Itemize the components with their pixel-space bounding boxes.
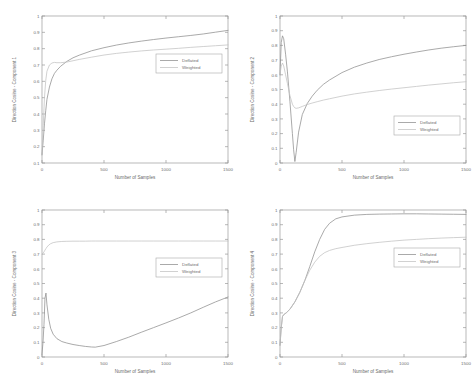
legend-label-deflated: Deflated — [420, 120, 437, 125]
y-tick-label: 0 — [275, 161, 278, 166]
y-tick-label: 0.5 — [271, 281, 278, 286]
curve-deflated — [42, 293, 228, 354]
curve-deflated — [280, 214, 466, 345]
y-tick-label: 0.4 — [271, 296, 278, 301]
y-tick-label: 0.5 — [33, 281, 40, 286]
plot-area-component-1: 0500100015000.10.20.30.40.50.60.70.80.91… — [0, 0, 238, 195]
subplot-component-2: 05001000150000.10.20.30.40.50.60.70.80.9… — [238, 0, 476, 195]
y-tick-label: 0.4 — [33, 112, 40, 117]
y-tick-label: 0.2 — [33, 325, 40, 330]
legend: DeflatedWeighted — [394, 248, 460, 267]
legend-label-deflated: Deflated — [420, 252, 437, 257]
y-tick-label: 0.2 — [271, 325, 278, 330]
y-tick-label: 1 — [37, 14, 40, 19]
x-axis-title: Number of Samples — [353, 175, 394, 180]
y-tick-label: 0.8 — [33, 237, 40, 242]
subplot-component-1: 0500100015000.10.20.30.40.50.60.70.80.91… — [0, 0, 238, 195]
y-tick-label: 0.5 — [271, 87, 278, 92]
y-tick-label: 0.3 — [271, 117, 278, 122]
legend-label-weighted: Weighted — [182, 269, 201, 274]
y-tick-label: 0.1 — [33, 161, 40, 166]
x-tick-label: 1500 — [461, 361, 471, 366]
y-tick-label: 0.1 — [33, 340, 40, 345]
x-tick-label: 1000 — [161, 167, 171, 172]
y-tick-label: 0.7 — [33, 63, 40, 68]
legend-label-weighted: Weighted — [420, 259, 439, 264]
legend-label-deflated: Deflated — [182, 58, 199, 63]
plot-area-component-4: 05001000150000.10.20.30.40.50.60.70.80.9… — [238, 194, 476, 389]
y-tick-label: 0 — [275, 355, 278, 360]
y-tick-label: 0.6 — [33, 79, 40, 84]
y-tick-label: 0.8 — [271, 43, 278, 48]
curve-deflated — [280, 36, 466, 162]
y-tick-label: 0.7 — [33, 252, 40, 257]
y-tick-label: 0 — [37, 355, 40, 360]
x-tick-label: 500 — [338, 361, 346, 366]
x-tick-label: 500 — [338, 167, 346, 172]
y-tick-label: 0.6 — [271, 73, 278, 78]
x-tick-label: 0 — [41, 361, 44, 366]
legend-label-weighted: Weighted — [182, 65, 201, 70]
x-axis-title: Number of Samples — [115, 369, 156, 374]
x-tick-label: 0 — [279, 167, 282, 172]
legend-label-weighted: Weighted — [420, 127, 439, 132]
y-tick-label: 0.7 — [271, 252, 278, 257]
x-tick-label: 1500 — [223, 167, 233, 172]
x-axis-title: Number of Samples — [353, 369, 394, 374]
axes-frame — [42, 16, 228, 163]
y-tick-label: 0.9 — [271, 28, 278, 33]
subplot-component-4: 05001000150000.10.20.30.40.50.60.70.80.9… — [238, 194, 476, 389]
curve-weighted — [42, 241, 228, 254]
plot-area-component-3: 05001000150000.10.20.30.40.50.60.70.80.9… — [0, 194, 238, 389]
y-tick-label: 0.4 — [271, 102, 278, 107]
y-axis-title: Direction Cosine - Component 2 — [250, 56, 255, 122]
x-tick-label: 500 — [100, 167, 108, 172]
x-tick-label: 1000 — [399, 361, 409, 366]
y-tick-label: 0.3 — [33, 128, 40, 133]
axes-frame — [280, 16, 466, 163]
y-axis-title: Direction Cosine - Component 1 — [12, 56, 17, 122]
y-tick-label: 0.3 — [271, 311, 278, 316]
x-tick-label: 0 — [279, 361, 282, 366]
y-tick-label: 0.9 — [33, 222, 40, 227]
y-tick-label: 0.9 — [33, 30, 40, 35]
y-axis-title: Direction Cosine - Component 3 — [12, 250, 17, 316]
figure-canvas: 0500100015000.10.20.30.40.50.60.70.80.91… — [0, 0, 476, 389]
y-tick-label: 1 — [275, 208, 278, 213]
y-tick-label: 0.7 — [271, 58, 278, 63]
x-tick-label: 1000 — [161, 361, 171, 366]
y-tick-label: 1 — [275, 14, 278, 19]
y-axis-title: Direction Cosine - Component 4 — [250, 250, 255, 316]
y-tick-label: 0.8 — [271, 237, 278, 242]
y-tick-label: 0.2 — [271, 131, 278, 136]
legend: DeflatedWeighted — [394, 116, 460, 135]
plot-area-component-2: 05001000150000.10.20.30.40.50.60.70.80.9… — [238, 0, 476, 195]
y-tick-label: 0.9 — [271, 222, 278, 227]
y-tick-label: 0.8 — [33, 46, 40, 51]
legend-label-deflated: Deflated — [182, 262, 199, 267]
x-axis-title: Number of Samples — [115, 175, 156, 180]
y-tick-label: 0.3 — [33, 311, 40, 316]
x-tick-label: 500 — [100, 361, 108, 366]
curve-weighted — [280, 63, 466, 108]
y-tick-label: 0.5 — [33, 95, 40, 100]
axes-frame — [280, 210, 466, 357]
curve-deflated — [42, 30, 228, 154]
legend: DeflatedWeighted — [156, 54, 222, 73]
y-tick-label: 0.1 — [271, 146, 278, 151]
x-tick-label: 0 — [41, 167, 44, 172]
x-tick-label: 1000 — [399, 167, 409, 172]
subplot-component-3: 05001000150000.10.20.30.40.50.60.70.80.9… — [0, 194, 238, 389]
y-tick-label: 0.1 — [271, 340, 278, 345]
x-tick-label: 1500 — [223, 361, 233, 366]
y-tick-label: 0.4 — [33, 296, 40, 301]
y-tick-label: 0.6 — [33, 267, 40, 272]
y-tick-label: 0.6 — [271, 267, 278, 272]
legend: DeflatedWeighted — [156, 258, 222, 277]
x-tick-label: 1500 — [461, 167, 471, 172]
y-tick-label: 1 — [37, 208, 40, 213]
y-tick-label: 0.2 — [33, 144, 40, 149]
